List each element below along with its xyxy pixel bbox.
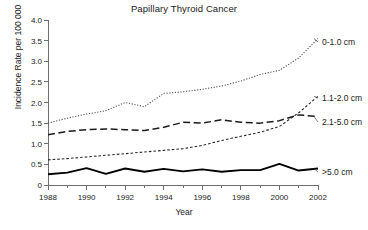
- series-label: >5.0 cm: [322, 167, 352, 177]
- y-tick-label: 4.0: [31, 16, 43, 25]
- x-axis-ticks: 19881990199219941996199820002002: [39, 185, 327, 202]
- y-tick-label: 0.5: [31, 160, 43, 169]
- series-label: 0-1.0 cm: [322, 37, 355, 47]
- series-leader-line: [314, 117, 318, 122]
- y-tick-label: 0: [38, 181, 43, 190]
- series-line: [48, 96, 318, 160]
- series-labels: 0-1.0 cm1.1-2.0 cm2.1-5.0 cm>5.0 cm: [314, 37, 362, 177]
- x-tick-label: 1996: [193, 193, 211, 202]
- x-tick-label: 1990: [78, 193, 96, 202]
- y-axis-ticks: 00.51.01.52.02.53.03.54.0: [31, 16, 48, 190]
- x-tick-label: 1988: [39, 193, 57, 202]
- x-tick-label: 2000: [271, 193, 289, 202]
- series-leader-line: [314, 39, 318, 42]
- y-tick-label: 1.5: [31, 119, 43, 128]
- chart-figure: Papillary Thyroid Cancer Incidence Rate …: [0, 0, 368, 230]
- plot-area: 00.51.01.52.02.53.03.54.0 19881990199219…: [0, 0, 368, 230]
- series-line: [48, 115, 318, 135]
- series-line: [48, 164, 318, 174]
- y-tick-label: 1.0: [31, 140, 43, 149]
- y-tick-label: 2.0: [31, 99, 43, 108]
- series-lines: [48, 39, 318, 175]
- x-tick-label: 1998: [232, 193, 250, 202]
- y-tick-label: 3.5: [31, 37, 43, 46]
- x-tick-label: 1994: [155, 193, 173, 202]
- series-label: 2.1-5.0 cm: [322, 117, 362, 127]
- x-tick-label: 2002: [309, 193, 327, 202]
- x-tick-label: 1992: [116, 193, 134, 202]
- y-tick-label: 2.5: [31, 78, 43, 87]
- y-tick-label: 3.0: [31, 57, 43, 66]
- series-label: 1.1-2.0 cm: [322, 93, 362, 103]
- series-line: [48, 39, 318, 124]
